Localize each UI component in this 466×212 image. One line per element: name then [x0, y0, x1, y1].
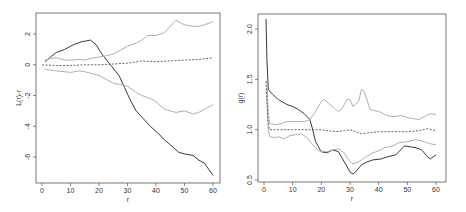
- x-tick-label: 30: [346, 186, 354, 193]
- series-lower-envelope: [45, 69, 213, 114]
- x-tick-label: 20: [317, 186, 325, 193]
- x-tick-label: 0: [40, 187, 44, 194]
- y-tick-label: -4: [24, 123, 31, 129]
- y-axis-ticks: 20-2-4-6: [24, 32, 36, 160]
- figure: 0102030405060 20-2-4-6 r L(r)-r 01020304…: [0, 0, 466, 212]
- y-axis-label: g(r): [237, 93, 245, 104]
- x-tick-label: 60: [209, 187, 217, 194]
- x-tick-label: 40: [152, 187, 160, 194]
- y-tick-label: 2.0: [246, 24, 253, 34]
- series-lines: [42, 20, 213, 175]
- series-lines: [266, 19, 436, 174]
- x-tick-label: 0: [262, 186, 266, 193]
- plot-frame: [36, 13, 220, 183]
- x-tick-label: 40: [375, 186, 383, 193]
- y-tick-label: -6: [24, 154, 31, 160]
- y-tick-label: 0: [24, 63, 31, 67]
- y-tick-label: 0.5: [246, 175, 253, 185]
- y-axis-label: L(r)-r: [15, 90, 23, 106]
- y-tick-label: 2: [24, 32, 31, 36]
- y-tick-label: -2: [24, 92, 31, 98]
- x-tick-label: 20: [95, 187, 103, 194]
- x-tick-label: 30: [124, 187, 132, 194]
- plot-frame: [258, 14, 446, 182]
- x-tick-label: 50: [181, 187, 189, 194]
- panel-pair-correlation: 0102030405060 2.01.51.00.5 r g(r): [237, 14, 446, 202]
- x-tick-label: 10: [67, 187, 75, 194]
- x-axis-label: r: [127, 196, 130, 203]
- x-tick-label: 60: [432, 186, 440, 193]
- x-tick-label: 50: [403, 186, 411, 193]
- x-tick-label: 10: [289, 186, 297, 193]
- series-upper-envelope: [267, 79, 436, 124]
- panel-l-function: 0102030405060 20-2-4-6 r L(r)-r: [15, 13, 220, 203]
- x-axis-label: r: [351, 195, 354, 202]
- series-upper-envelope: [45, 20, 213, 60]
- series-theoretical-mean: [266, 81, 436, 133]
- y-tick-label: 1.0: [246, 125, 253, 135]
- x-axis-ticks: 0102030405060: [40, 183, 217, 194]
- y-tick-label: 1.5: [246, 74, 253, 84]
- y-axis-ticks: 2.01.51.00.5: [246, 24, 258, 185]
- x-axis-ticks: 0102030405060: [262, 182, 440, 193]
- series-theoretical-mean: [42, 58, 213, 66]
- series-lower-envelope: [267, 89, 436, 163]
- series-observed: [266, 19, 436, 174]
